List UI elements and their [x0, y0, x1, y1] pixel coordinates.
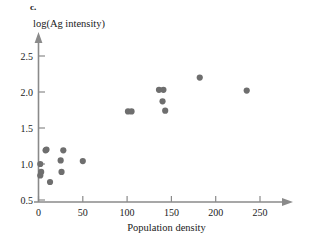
y-tick-label: 1.5 — [21, 123, 34, 134]
x-axis-arrowhead — [282, 198, 293, 206]
y-tick-label: 1.0 — [21, 159, 34, 170]
y-axis-arrowhead — [35, 32, 43, 43]
scatter-plot: 050100150200250 0.51.01.52.02.5 — [0, 0, 309, 242]
x-tick-label: 150 — [164, 207, 179, 218]
x-axis-label: Population density — [127, 222, 205, 233]
x-tick-label: 0 — [36, 207, 41, 218]
data-points — [37, 75, 250, 186]
data-point — [80, 158, 86, 164]
data-point — [37, 161, 43, 167]
x-axis-label-wrap: Population density — [0, 222, 309, 233]
data-point — [162, 108, 168, 114]
data-point — [159, 98, 165, 104]
data-point — [244, 87, 250, 93]
data-point — [58, 169, 64, 175]
data-point — [60, 147, 66, 153]
data-point — [38, 169, 44, 175]
y-axis-ticks: 0.51.01.52.02.5 — [21, 51, 46, 206]
x-axis-ticks: 050100150200250 — [36, 196, 268, 218]
y-tick-label: 0.5 — [21, 195, 34, 206]
data-point — [160, 87, 166, 93]
data-point — [47, 179, 53, 185]
x-tick-label: 100 — [120, 207, 135, 218]
data-point — [43, 147, 49, 153]
y-tick-label: 2.0 — [21, 87, 34, 98]
y-tick-label: 2.5 — [21, 51, 34, 62]
axes — [34, 32, 293, 206]
x-tick-label: 50 — [78, 207, 88, 218]
x-tick-label: 200 — [208, 207, 223, 218]
x-tick-label: 250 — [253, 207, 268, 218]
data-point — [197, 75, 203, 81]
figure-panel-c: c. log(Ag intensity) 050100150200250 0.5… — [0, 0, 309, 242]
data-point — [58, 157, 64, 163]
data-point — [128, 108, 134, 114]
